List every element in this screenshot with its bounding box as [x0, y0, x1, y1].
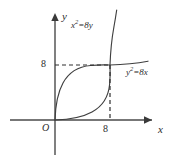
- y-axis-arrowhead: [51, 13, 58, 21]
- y-axis-label: y: [62, 11, 67, 22]
- equation-y2-rhs: =8x: [133, 67, 148, 77]
- x-axis-label: x: [158, 124, 163, 135]
- equation-x2-rhs: =8y: [78, 20, 93, 30]
- x-axis-arrowhead: [144, 116, 152, 123]
- parabola-figure: y x O 8 8 x2=8y y2=8x: [0, 0, 173, 165]
- y-axis-tick-label-8: 8: [41, 59, 46, 69]
- origin-label: O: [42, 123, 49, 133]
- equation-label-y-squared-equals-8x: y2=8x: [126, 66, 148, 77]
- equation-label-x-squared-equals-8y: x2=8y: [71, 19, 93, 30]
- x-axis-tick-label-8: 8: [103, 124, 108, 134]
